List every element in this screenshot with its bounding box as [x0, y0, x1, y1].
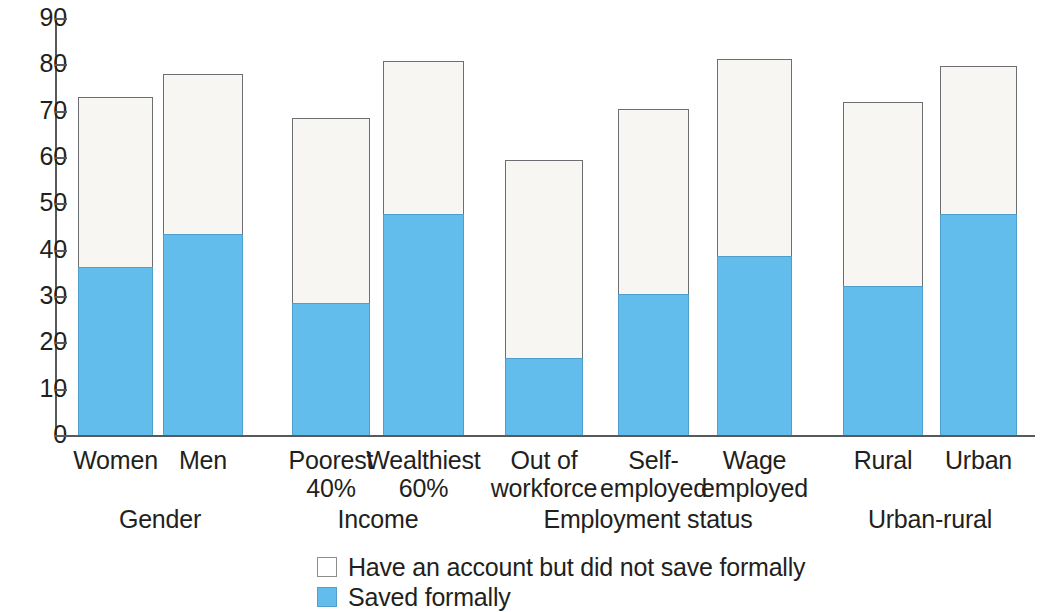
- bar-wealthiest: [383, 61, 464, 435]
- legend-swatch-icon: [317, 557, 337, 577]
- bar-urban: [940, 66, 1017, 435]
- legend-item: Have an account but did not save formall…: [317, 552, 805, 582]
- bar-segment-saved-formally: [292, 303, 370, 435]
- plot-area: [0, 0, 1041, 437]
- bar-self: [618, 109, 689, 435]
- bar-segment-account-no-save: [383, 61, 464, 216]
- bar-rural: [843, 102, 923, 435]
- bar-segment-account-no-save: [618, 109, 689, 295]
- bar-women: [78, 97, 153, 435]
- bar-men: [163, 74, 243, 435]
- bar-segment-saved-formally: [505, 358, 583, 435]
- bar-segment-account-no-save: [78, 97, 153, 269]
- legend-item: Saved formally: [317, 582, 805, 612]
- bar-segment-account-no-save: [717, 59, 792, 258]
- x-axis-category-label-line1: Urban: [884, 446, 1041, 474]
- x-axis-category-label-line2: employed: [660, 474, 850, 502]
- group-label-urban-rural: Urban-rural: [770, 505, 1041, 533]
- bar-segment-account-no-save: [292, 118, 370, 305]
- bar-segment-saved-formally: [618, 294, 689, 435]
- bar-segment-saved-formally: [717, 256, 792, 435]
- bar-segment-saved-formally: [843, 286, 923, 435]
- bar-segment-saved-formally: [163, 234, 243, 435]
- bar-segment-account-no-save: [505, 160, 583, 359]
- bar-segment-saved-formally: [78, 267, 153, 435]
- bar-wage: [717, 59, 792, 435]
- bar-segment-account-no-save: [940, 66, 1017, 215]
- bar-segment-saved-formally: [940, 214, 1017, 435]
- x-axis-category-label: Urban: [884, 446, 1041, 474]
- bar-segment-saved-formally: [383, 214, 464, 435]
- bar-segment-account-no-save: [163, 74, 243, 236]
- bar-segment-account-no-save: [843, 102, 923, 288]
- chart-legend: Have an account but did not save formall…: [317, 552, 805, 612]
- legend-label: Have an account but did not save formall…: [348, 554, 805, 581]
- legend-label: Saved formally: [348, 584, 511, 611]
- legend-swatch-icon: [317, 587, 337, 607]
- bar-poorest: [292, 118, 370, 435]
- bar-out-of: [505, 160, 583, 435]
- group-label-employment-status: Employment status: [488, 505, 808, 533]
